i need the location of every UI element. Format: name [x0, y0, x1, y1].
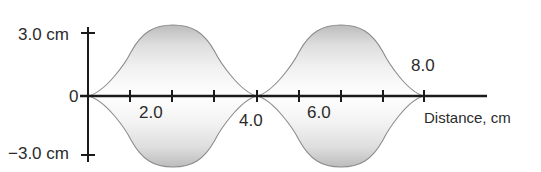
envelope-lobe-2-lower	[257, 96, 424, 167]
envelope-lobe-2-upper	[257, 25, 424, 96]
x-tick-label-2: 2.0	[139, 104, 163, 121]
envelope-lobe-1-upper	[88, 25, 257, 96]
envelope-lobe-1-lower	[88, 96, 257, 167]
origin-label: 0	[69, 88, 78, 105]
standing-wave-figure: 3.0 cm −3.0 cm 0 2.0 4.0 6.0 8.0 Distanc…	[0, 0, 541, 172]
standing-wave-plot	[0, 0, 541, 172]
y-axis-label-positive: 3.0 cm	[18, 26, 69, 43]
x-tick-label-4: 4.0	[239, 112, 263, 129]
x-tick-label-8: 8.0	[411, 57, 435, 74]
y-axis-label-negative: −3.0 cm	[8, 145, 69, 162]
x-tick-label-6: 6.0	[307, 104, 331, 121]
x-axis-title: Distance, cm	[424, 110, 511, 125]
